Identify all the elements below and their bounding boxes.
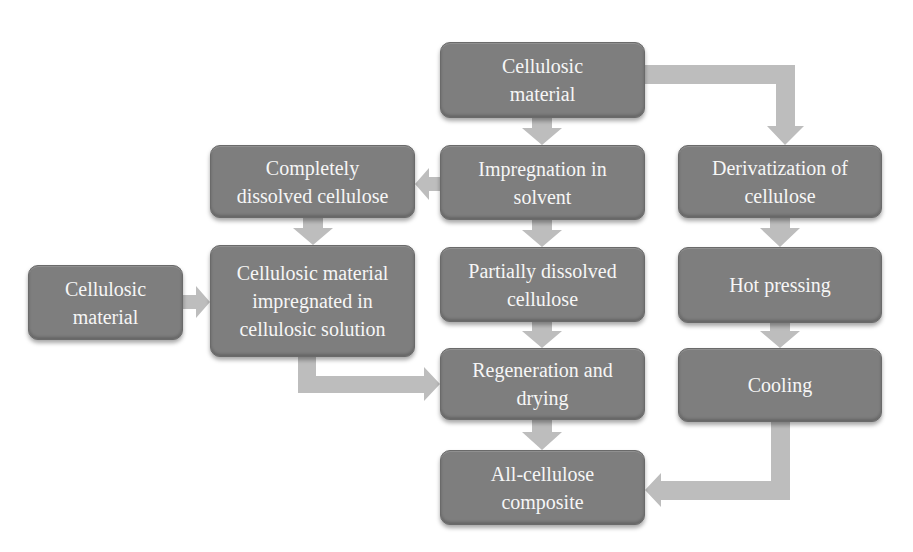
node-regeneration-and-drying: Regeneration and drying	[440, 348, 645, 420]
arrow-right-icon	[183, 286, 210, 318]
node-cellulosic-material-top: Cellulosic material	[440, 42, 645, 118]
flowchart-canvas: Cellulosic material Impregnation in solv…	[0, 0, 913, 552]
arrow-left-icon	[415, 168, 440, 200]
arrow-down-icon	[522, 420, 562, 450]
arrow-down-icon	[293, 218, 333, 245]
node-cellulosic-material-left: Cellulosic material	[28, 265, 183, 340]
arrow-elbow-down-right-icon	[298, 357, 440, 401]
arrow-elbow-right-down-icon	[645, 65, 804, 145]
node-derivatization-of-cellulose: Derivatization of cellulose	[678, 145, 882, 218]
node-cellulosic-material-impregnated: Cellulosic material impregnated in cellu…	[210, 245, 415, 357]
arrow-down-icon	[522, 322, 562, 348]
node-cooling: Cooling	[678, 348, 882, 422]
node-all-cellulose-composite: All-cellulose composite	[440, 450, 645, 525]
arrow-down-icon	[760, 218, 800, 247]
arrow-elbow-down-left-icon	[645, 422, 790, 507]
arrow-down-icon	[522, 220, 562, 247]
node-hot-pressing: Hot pressing	[678, 247, 882, 323]
node-impregnation-in-solvent: Impregnation in solvent	[440, 145, 645, 220]
node-completely-dissolved-cellulose: Completely dissolved cellulose	[210, 145, 415, 218]
arrow-down-icon	[522, 118, 562, 145]
node-partially-dissolved-cellulose: Partially dissolved cellulose	[440, 247, 645, 322]
arrow-down-icon	[760, 323, 800, 348]
